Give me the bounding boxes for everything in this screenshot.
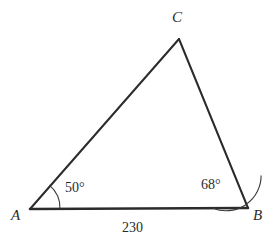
angle-label-a: 50°: [65, 181, 85, 195]
vertex-label-c: C: [172, 10, 182, 25]
side-length-label-ab: 230: [122, 221, 143, 235]
angle-arc-a: [49, 185, 60, 209]
vertex-label-b: B: [253, 208, 262, 223]
side-ac: [30, 39, 179, 209]
angle-label-b: 68°: [201, 178, 221, 192]
triangle-drawing: [0, 0, 274, 250]
triangle-figure: A B C 50° 68° 230: [0, 0, 274, 250]
vertex-label-a: A: [11, 208, 20, 223]
